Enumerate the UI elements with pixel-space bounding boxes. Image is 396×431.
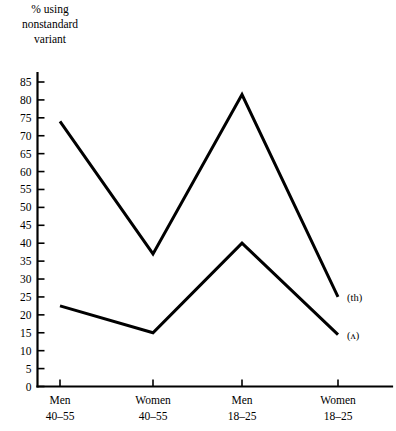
- x-category-label: 40–55: [139, 410, 168, 422]
- y-tick-label: 65: [20, 148, 32, 160]
- y-tick-label: 80: [20, 94, 32, 106]
- chart-plot-area: 0510152025303540455055606570758085 Men40…: [0, 0, 396, 431]
- x-category-label: Men: [231, 394, 252, 406]
- series-label: (ʌ): [347, 330, 360, 342]
- y-tick-label: 55: [20, 183, 32, 195]
- y-axis-ticks: 0510152025303540455055606570758085: [20, 76, 45, 393]
- series-label: (th): [347, 292, 363, 304]
- y-tick-label: 85: [20, 76, 32, 88]
- x-category-label: 18–25: [228, 410, 257, 422]
- series-legend-labels: (th)(ʌ): [347, 292, 363, 342]
- y-tick-label: 35: [20, 255, 32, 267]
- x-category-label: Women: [320, 394, 356, 406]
- y-tick-label: 10: [20, 345, 32, 357]
- y-tick-label: 70: [20, 130, 32, 142]
- data-line-ʌ: [60, 243, 338, 334]
- y-tick-label: 5: [26, 363, 32, 375]
- data-line-th: [60, 95, 338, 297]
- y-tick-label: 20: [20, 309, 32, 321]
- y-tick-label: 30: [20, 273, 32, 285]
- y-tick-label: 15: [20, 327, 32, 339]
- x-axis-category-labels: Men40–55Women40–55Men18–25Women18–25: [46, 394, 356, 422]
- x-category-label: Men: [49, 394, 70, 406]
- y-tick-label: 45: [20, 219, 32, 231]
- x-category-label: Women: [135, 394, 171, 406]
- y-tick-label: 60: [20, 166, 32, 178]
- chart-container: % using nonstandard variant 051015202530…: [0, 0, 396, 431]
- data-series-group: [60, 95, 338, 335]
- y-tick-label: 75: [20, 112, 32, 124]
- y-tick-label: 50: [20, 201, 32, 213]
- x-category-label: 18–25: [324, 410, 353, 422]
- y-tick-label: 40: [20, 237, 32, 249]
- y-tick-label: 25: [20, 291, 32, 303]
- y-tick-label: 0: [26, 381, 32, 393]
- x-category-label: 40–55: [46, 410, 75, 422]
